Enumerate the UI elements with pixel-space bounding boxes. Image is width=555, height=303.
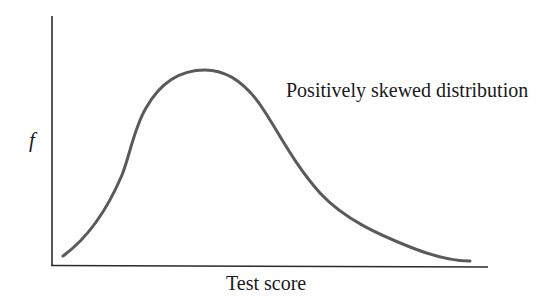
chart-annotation: Positively skewed distribution [286, 79, 528, 102]
x-axis-label: Test score [226, 272, 306, 295]
chart-plot-area [0, 0, 555, 303]
chart-figure: Positively skewed distribution Test scor… [0, 0, 555, 303]
y-axis-label: f [29, 128, 35, 153]
x-axis [51, 266, 488, 268]
